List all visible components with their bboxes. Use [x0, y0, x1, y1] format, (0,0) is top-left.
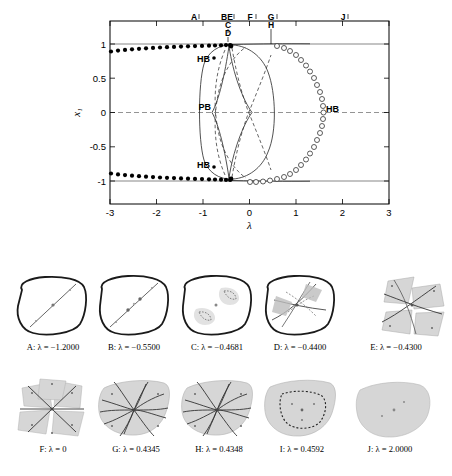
marker-label-J: J [341, 12, 346, 22]
stable-equilibrium-upper [109, 43, 232, 54]
panel-A [18, 277, 87, 335]
bifurcation-diagram: -3 -2 -1 0 1 2 3 1 0.5 0 -0.5 -1 λ x₁ [70, 12, 392, 231]
label-HB-right: HB [326, 104, 339, 114]
y-tick-label: 1 [101, 39, 106, 50]
panel-row-1 [18, 276, 444, 336]
x-tick-label: 1 [293, 207, 298, 218]
y-tick-label: 0 [101, 107, 106, 118]
x-tick-label: -2 [152, 207, 160, 218]
y-tick-labels: 1 0.5 0 -0.5 -1 [90, 39, 106, 187]
y-axis-label: x₁ [70, 108, 82, 118]
x-axis-label: λ [246, 219, 252, 231]
panel-caption-H: H: λ = 0.4348 [195, 444, 243, 454]
x-tick-labels: -3 -2 -1 0 1 2 3 [106, 207, 392, 218]
x-tick-label: 0 [247, 207, 252, 218]
panel-G [99, 381, 170, 436]
label-HB-lower: HB [197, 160, 210, 170]
panel-I [265, 380, 336, 436]
panel-row-2 [18, 379, 430, 437]
panel-caption-A: A: λ = −1.2000 [27, 342, 80, 352]
panel-captions-row-2: F: λ = 0 G: λ = 0.4345 H: λ = 0.4348 I: … [40, 444, 413, 454]
top-marker-labels: A BE C D F G H J [191, 12, 346, 38]
y-tick-label: -1 [98, 176, 106, 187]
x-tick-label: -3 [106, 207, 114, 218]
panel-F [18, 379, 84, 436]
x-tick-label: 2 [340, 207, 345, 218]
y-tick-label: 0.5 [93, 73, 106, 84]
x-tick-label: -1 [199, 207, 207, 218]
panel-caption-E: E: λ = −0.4300 [370, 342, 422, 352]
panel-caption-J: J: λ = 2.0000 [368, 444, 413, 454]
panel-caption-G: G: λ = 0.4345 [112, 444, 160, 454]
panel-caption-I: I: λ = 0.4592 [280, 444, 324, 454]
panel-J [356, 382, 430, 437]
panel-H [182, 381, 253, 436]
panel-C [183, 276, 251, 335]
figure-root: -3 -2 -1 0 1 2 3 1 0.5 0 -0.5 -1 λ x₁ [0, 0, 452, 476]
stable-equilibrium-lower [109, 171, 232, 182]
x-tick-label: 3 [386, 207, 391, 218]
y-tick-label: -0.5 [90, 141, 106, 152]
panel-caption-F: F: λ = 0 [40, 444, 67, 454]
marker-label-H: H [268, 20, 274, 30]
panel-D [266, 276, 334, 335]
panel-caption-B: B: λ = −0.5500 [108, 342, 160, 352]
bifurcation-labels: HB HB HB PB [197, 54, 339, 170]
panel-caption-C: C: λ = −0.4681 [191, 342, 243, 352]
label-HB-upper: HB [197, 54, 210, 64]
periodic-orbit-branch [248, 44, 327, 185]
panel-B [100, 276, 168, 335]
marker-label-F: F [247, 12, 252, 22]
marker-label-A: A [191, 12, 197, 22]
panel-captions-row-1: A: λ = −1.2000 B: λ = −0.5500 C: λ = −0.… [27, 342, 422, 352]
panel-E [382, 277, 444, 336]
panel-caption-D: D: λ = −0.4400 [274, 342, 327, 352]
label-PB: PB [198, 102, 211, 112]
